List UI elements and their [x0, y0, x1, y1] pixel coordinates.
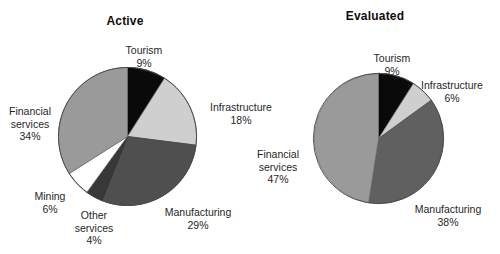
pie-slice-financial-services — [314, 73, 378, 202]
label-infrastructure-evaluated-name: Infrastructure — [421, 79, 483, 91]
label-tourism-evaluated: Tourism 9% — [360, 52, 424, 77]
label-tourism-active-pct: 9% — [112, 57, 176, 70]
label-financial-services-evaluated: Financial services 47% — [249, 148, 307, 186]
label-financial-services-active-pct: 34% — [2, 130, 58, 143]
pie-active — [57, 66, 198, 207]
label-tourism-active-name: Tourism — [126, 44, 163, 56]
label-infrastructure-evaluated-pct: 6% — [406, 92, 498, 105]
label-manufacturing-evaluated-pct: 38% — [400, 216, 496, 229]
label-financial-services-evaluated-line1: Financial — [257, 148, 299, 160]
label-manufacturing-active-name: Manufacturing — [165, 206, 232, 218]
chart-title-evaluated: Evaluated — [250, 9, 500, 23]
label-financial-services-evaluated-line2: services — [249, 161, 307, 174]
label-manufacturing-evaluated: Manufacturing 38% — [400, 203, 496, 228]
label-other-services-active-line2: services — [61, 222, 127, 235]
label-financial-services-active-line1: Financial — [9, 105, 51, 117]
label-tourism-active: Tourism 9% — [112, 44, 176, 69]
chart-panel-active: Active Tourism 9% — [0, 0, 250, 254]
chart-title-active: Active — [0, 14, 250, 28]
label-manufacturing-active: Manufacturing 29% — [150, 206, 246, 231]
label-mining-active: Mining 6% — [22, 190, 78, 215]
label-manufacturing-active-pct: 29% — [150, 219, 246, 232]
label-manufacturing-evaluated-name: Manufacturing — [415, 203, 482, 215]
label-other-services-active-pct: 4% — [61, 234, 127, 247]
chart-panel-evaluated: Evaluated Tourism 9% Infrastructure 6% — [250, 0, 500, 254]
label-financial-services-evaluated-pct: 47% — [249, 173, 307, 186]
pie-chart-figure: Active Tourism 9% — [0, 0, 500, 254]
label-infrastructure-evaluated: Infrastructure 6% — [406, 79, 498, 104]
label-tourism-evaluated-name: Tourism — [374, 52, 411, 64]
label-mining-active-name: Mining — [35, 190, 66, 202]
label-other-services-active-line1: Other — [81, 209, 107, 221]
label-tourism-evaluated-pct: 9% — [360, 65, 424, 78]
label-financial-services-active-line2: services — [2, 118, 58, 131]
label-mining-active-pct: 6% — [22, 203, 78, 216]
label-financial-services-active: Financial services 34% — [2, 105, 58, 143]
